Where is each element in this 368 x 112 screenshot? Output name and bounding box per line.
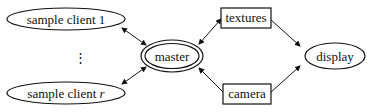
ellipsis-dots: ⋮ xyxy=(74,50,87,65)
node-camera: camera xyxy=(223,84,271,104)
node-label: sample client r xyxy=(27,86,105,101)
edge-clientr-master xyxy=(122,67,146,84)
node-label: display xyxy=(316,49,354,64)
edge-client1-master xyxy=(122,28,146,45)
node-label: textures xyxy=(225,10,266,25)
edge-camera-display xyxy=(270,66,300,93)
node-label: camera xyxy=(228,86,266,101)
edge-camera-master xyxy=(199,68,223,92)
node-master: master xyxy=(141,40,203,72)
node-display: display xyxy=(305,43,365,69)
node-sample-client-r: sample client r xyxy=(7,82,125,104)
node-label: master xyxy=(155,49,190,64)
diagram-canvas: sample client 1 ⋮ sample client r master… xyxy=(0,0,368,112)
node-label: sample client 1 xyxy=(27,12,106,27)
node-sample-client-1: sample client 1 xyxy=(7,8,125,30)
edge-master-textures xyxy=(199,19,221,44)
node-textures: textures xyxy=(221,8,271,28)
edge-textures-display xyxy=(270,19,300,46)
